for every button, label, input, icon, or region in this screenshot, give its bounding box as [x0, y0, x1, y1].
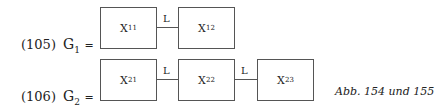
- link-line: [234, 79, 257, 80]
- box-var: X: [198, 74, 206, 87]
- box-sub: 12: [206, 24, 215, 32]
- lhs-sub: 2: [74, 97, 80, 107]
- box-var: X: [120, 74, 128, 87]
- link-line: [156, 27, 178, 28]
- equation-number: (106): [21, 89, 56, 104]
- diagram-box-x11: X11: [100, 7, 157, 49]
- box-sub: 11: [128, 24, 137, 32]
- link-label: L: [163, 13, 170, 24]
- box-var: X: [198, 22, 206, 35]
- equation-lhs: G2 =: [63, 88, 94, 107]
- box-sub: 23: [285, 76, 294, 84]
- diagram-box-x12: X12: [178, 7, 235, 49]
- equation-number: (105): [21, 37, 56, 52]
- equals-sign: =: [84, 39, 93, 52]
- box-sub: 21: [128, 76, 137, 84]
- box-var: X: [120, 22, 128, 35]
- diagram-box-x22: X22: [178, 59, 235, 101]
- diagram-box-x23: X23: [257, 59, 314, 101]
- link-label: L: [163, 65, 170, 76]
- box-sub: 22: [206, 76, 215, 84]
- link-label: L: [241, 65, 248, 76]
- equation-lhs: G1 =: [63, 36, 94, 55]
- equals-sign: =: [84, 91, 93, 104]
- link-line: [156, 79, 178, 80]
- lhs-var: G: [63, 88, 74, 104]
- lhs-sub: 1: [74, 45, 80, 55]
- lhs-var: G: [63, 36, 74, 52]
- box-var: X: [277, 74, 285, 87]
- diagram-box-x21: X21: [100, 59, 157, 101]
- figure-caption: Abb. 154 und 155: [335, 85, 434, 98]
